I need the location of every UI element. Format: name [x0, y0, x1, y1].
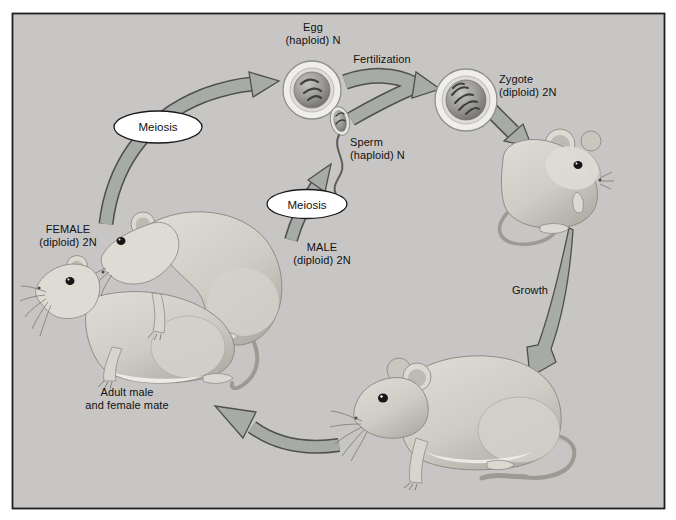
meiosis-left-label: Meiosis: [114, 114, 202, 140]
meiosis-right-label: Meiosis: [267, 192, 347, 217]
diagram-artwork: [0, 0, 676, 520]
zygote-cell-illustration: [435, 69, 497, 131]
figure-canvas: Egg (haploid) N Fertilization Zygote (di…: [0, 0, 676, 520]
